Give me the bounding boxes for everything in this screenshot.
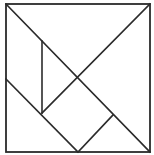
bottom-short — [78, 115, 113, 152]
tangram-diagram — [0, 0, 154, 155]
